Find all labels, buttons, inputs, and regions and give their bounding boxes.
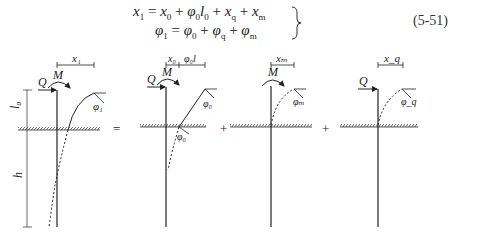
svg-text:φ₀l: φ₀l — [184, 53, 196, 64]
operator-plus-2: + — [322, 121, 329, 136]
svg-text:x_q: x_q — [383, 52, 400, 64]
label-M: M — [52, 68, 64, 82]
svg-text:Q: Q — [359, 74, 368, 88]
operator-equals: = — [113, 121, 120, 136]
label-h: h — [11, 172, 25, 178]
svg-text:x₀: x₀ — [167, 53, 176, 64]
svg-text:φₘ: φₘ — [293, 96, 305, 107]
operator-plus-1: + — [220, 121, 227, 136]
diagram-total: l₀ h Q M x₁ φ₁ — [8, 52, 106, 227]
svg-text:M: M — [161, 65, 173, 79]
svg-text:φ₀: φ₀ — [203, 98, 213, 109]
svg-text:φ_q: φ_q — [401, 96, 417, 107]
diagram-shear: Q x_q φ_q — [340, 52, 418, 227]
label-l0: l₀ — [8, 101, 22, 109]
diagram-initial: Q M x₀ φ₀l φ₀ φ₀ — [140, 53, 217, 227]
svg-text:Q: Q — [147, 72, 156, 86]
label-x1: x₁ — [71, 52, 81, 64]
svg-text:φ₀: φ₀ — [177, 131, 187, 142]
label-Q: Q — [38, 75, 47, 89]
label-phi1: φ₁ — [93, 100, 103, 112]
svg-text:M: M — [267, 65, 279, 79]
svg-text:xₘ: xₘ — [275, 52, 288, 64]
diagram-moment: M xₘ φₘ — [230, 52, 312, 227]
pile-deflection-diagram: l₀ h Q M x₁ φ₁ = Q M — [0, 0, 497, 244]
